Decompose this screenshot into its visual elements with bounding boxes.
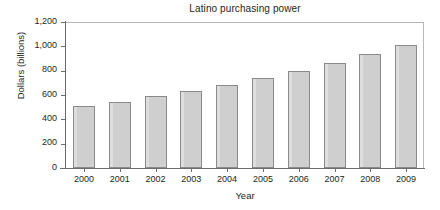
x-tick-mark [156,168,157,172]
x-tick-label: 2000 [66,174,102,184]
x-tick-mark [227,168,228,172]
y-tick-mark [61,71,66,72]
bar [288,71,310,168]
y-axis-label: Dollars (billions) [15,6,26,126]
y-tick-label: 1,000 [34,40,57,50]
bar [359,54,381,168]
x-tick-mark [263,168,264,172]
bar-chart-figure: Latino purchasing power Dollars (billion… [0,0,440,210]
bar [216,85,238,168]
bar [395,45,417,168]
x-tick-label: 2008 [352,174,388,184]
x-tick-label: 2001 [102,174,138,184]
y-tick-mark [61,119,66,120]
x-tick-label: 2004 [209,174,245,184]
x-tick-mark [120,168,121,172]
y-tick-mark [61,22,66,23]
x-tick-mark [299,168,300,172]
x-tick-mark [370,168,371,172]
y-tick-label: 0 [52,162,57,172]
x-tick-label: 2007 [317,174,353,184]
chart-title: Latino purchasing power [66,3,424,14]
x-tick-mark [84,168,85,172]
x-axis-label: Year [66,190,424,201]
bar [252,78,274,168]
bar [109,102,131,168]
x-tick-label: 2005 [245,174,281,184]
y-tick-mark [61,95,66,96]
y-tick-mark [61,46,66,47]
y-tick-label: 400 [42,113,57,123]
y-tick-label: 600 [42,89,57,99]
y-tick-mark [61,144,66,145]
bar [145,96,167,168]
x-tick-mark [191,168,192,172]
y-tick-label: 800 [42,64,57,74]
y-tick-label: 1,200 [34,16,57,26]
x-tick-mark [406,168,407,172]
x-tick-label: 2009 [388,174,424,184]
x-tick-label: 2006 [281,174,317,184]
x-tick-label: 2002 [138,174,174,184]
bar [324,63,346,168]
y-tick-mark [61,168,66,169]
x-tick-mark [335,168,336,172]
x-tick-label: 2003 [173,174,209,184]
y-tick-label: 200 [42,137,57,147]
bar [73,106,95,168]
bar [180,91,202,168]
